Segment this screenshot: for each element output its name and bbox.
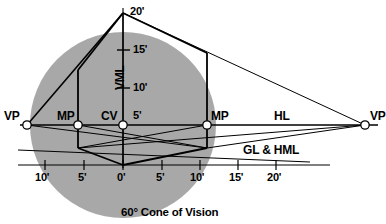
htick-left10-label: 10' (35, 172, 49, 183)
diagram-caption: 60° Cone of Vision (121, 207, 218, 219)
htick-zero-label: 0' (117, 172, 125, 183)
cv-marker[interactable] (119, 121, 127, 129)
vp-right-marker[interactable] (361, 121, 369, 129)
cv-label: CV (101, 110, 117, 122)
vtick-15-label: 15' (133, 44, 147, 55)
horizon-line-label: HL (274, 110, 290, 122)
mp-left-label: MP (57, 110, 75, 122)
vtick-20-label: 20' (130, 6, 144, 17)
vp-left-label: VP (4, 110, 20, 122)
htick-left5-label: 5' (78, 172, 86, 183)
htick-right10-label: 10' (190, 172, 204, 183)
vtick-10-label: 10' (133, 82, 147, 93)
vtick-5-label: 5' (133, 110, 141, 121)
htick-right5-label: 5' (156, 172, 164, 183)
htick-right20-label: 20' (267, 172, 281, 183)
mp-left-marker[interactable] (74, 121, 82, 129)
mp-right-label: MP (211, 110, 229, 122)
vml-label: VML (114, 65, 126, 90)
vp-right-label: VP (370, 110, 386, 122)
vp-left-marker[interactable] (23, 121, 31, 129)
ground-line-label: GL & HML (243, 144, 299, 156)
mp-right-marker[interactable] (203, 121, 211, 129)
htick-right15-label: 15' (229, 172, 243, 183)
